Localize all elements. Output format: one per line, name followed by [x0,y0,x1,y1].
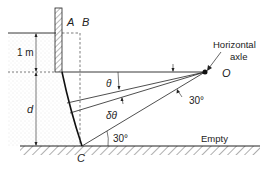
wall [55,8,62,72]
angle-30-lower-arc [107,131,108,146]
axle-leader [209,52,221,68]
axle-pivot [203,70,208,75]
label-horizontal: Horizontal [213,39,256,50]
label-1m: 1 m [17,47,34,58]
label-o: O [222,67,231,79]
label-theta: θ [106,78,112,89]
label-b: B [82,16,89,28]
label-empty: Empty [201,133,228,144]
axle-leader-arrow [207,65,212,71]
ground [20,146,260,155]
label-c: C [77,152,85,164]
label-dtheta: δθ [106,110,118,121]
radial-lines [67,72,205,146]
arrow-icon [118,86,121,90]
label-axle: axle [230,51,247,62]
label-30-lower: 30° [113,133,128,144]
label-30-upper: 30° [189,95,204,106]
label-d: d [27,103,34,115]
arrow-icon [172,68,175,72]
sector-gate-diagram: A B 1 m d θ δθ 30° 30° C O Horizontal ax… [0,0,280,170]
label-a: A [66,16,74,28]
